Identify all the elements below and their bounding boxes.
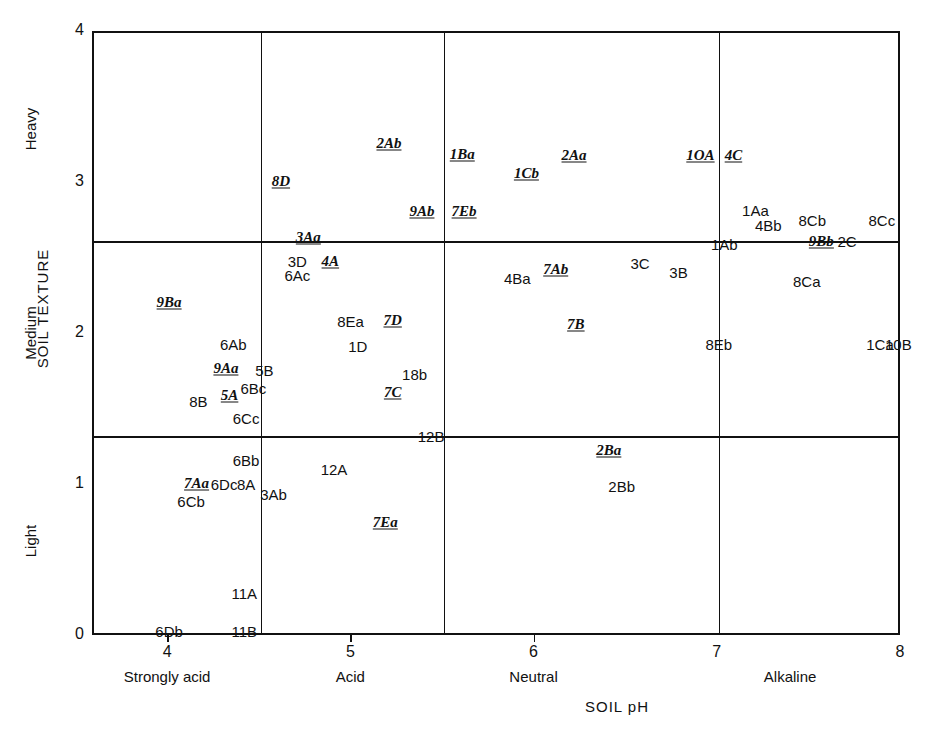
data-point-label: 3C (630, 255, 649, 270)
data-point-label: 9Aa (213, 361, 238, 376)
y-category-label: Medium (22, 298, 39, 368)
data-point-label: 7Eb (452, 204, 477, 219)
data-point-label: 12A (321, 462, 348, 477)
data-point-label: 6Ac (284, 267, 310, 282)
data-point-label: 6Bb (233, 453, 260, 468)
data-point-label: 10B (885, 337, 912, 352)
data-point-label: 9Ba (157, 294, 182, 309)
data-point-label: 8A (237, 477, 255, 492)
x-category-label: Alkaline (705, 668, 875, 685)
data-point-label: 7Ea (373, 515, 398, 530)
data-point-label: 8Cb (798, 213, 826, 228)
x-category-label: Neutral (449, 668, 619, 685)
data-point-label: 2C (837, 234, 856, 249)
data-point-label: 4C (725, 148, 743, 163)
data-point-label: 3Aa (296, 229, 321, 244)
vertical-divider-2 (719, 33, 721, 633)
x-category-label: Strongly acid (82, 668, 252, 685)
x-axis-tick-label: 4 (147, 643, 187, 661)
data-point-label: 2Ab (376, 136, 401, 151)
data-point-label: 7Ab (543, 261, 568, 276)
data-point-label: 8Eb (705, 337, 732, 352)
data-point-label: 1Aa (742, 202, 769, 217)
data-point-label: 6Bc (240, 380, 266, 395)
data-point-label: 7C (384, 385, 402, 400)
data-point-label: 1Cb (514, 166, 539, 181)
data-point-label: 4Bb (755, 217, 782, 232)
data-point-label: 3B (669, 264, 687, 279)
data-point-label: 8Ca (793, 273, 821, 288)
y-axis-tick-label: 1 (62, 474, 84, 492)
data-point-label: 1Ab (711, 237, 738, 252)
data-point-label: 6Cb (177, 494, 205, 509)
x-axis-tick-5 (350, 635, 352, 642)
data-point-label: 4Ba (504, 270, 531, 285)
data-point-label: 5A (221, 388, 239, 403)
x-axis-tick-6 (534, 635, 536, 642)
plot-area: 8D2Ab1Ba1Cb2Aa1OA4C9Ab7Eb1Aa4Bb8Cb8Cc3Aa… (92, 31, 900, 635)
data-point-label: 8Ea (337, 314, 364, 329)
data-point-label: 2Bb (608, 479, 635, 494)
x-category-label: Acid (265, 668, 435, 685)
data-point-label: 5B (255, 362, 273, 377)
data-point-label: 18b (402, 367, 427, 382)
data-point-label: 11B (231, 623, 257, 638)
horizontal-divider-0 (94, 436, 898, 438)
data-point-label: 2Aa (562, 148, 587, 163)
y-axis-tick-label: 0 (62, 625, 84, 643)
data-point-label: 7B (567, 317, 585, 332)
data-point-label: 8B (189, 394, 207, 409)
soil-ph-texture-scatter-figure: SOIL TEXTURE SOIL pH 01234 LightMediumHe… (0, 0, 929, 732)
data-point-label: 9Bb (809, 234, 834, 249)
data-point-label: 11A (231, 586, 257, 601)
data-point-label: 1D (348, 338, 367, 353)
data-point-label: 1Ba (450, 146, 475, 161)
data-point-label: 8D (272, 173, 290, 188)
vertical-divider-1 (444, 33, 446, 633)
x-axis-tick-label: 8 (880, 643, 920, 661)
vertical-divider-0 (261, 33, 263, 633)
data-point-label: 6Db (155, 623, 183, 638)
data-point-label: 7D (383, 312, 401, 327)
data-point-label: 4A (322, 254, 340, 269)
x-axis-tick-label: 6 (514, 643, 554, 661)
y-axis-tick-label: 4 (62, 21, 84, 39)
x-axis-title: SOIL pH (585, 698, 649, 715)
data-point-label: 9Ab (409, 204, 434, 219)
data-point-label: 6Dc (211, 477, 238, 492)
data-point-label: 7Aa (184, 475, 209, 490)
data-point-label: 1OA (686, 148, 714, 163)
y-category-label: Light (22, 506, 39, 576)
x-axis-tick-label: 7 (697, 643, 737, 661)
data-point-label: 2Ba (596, 442, 621, 457)
x-axis-tick-label: 5 (330, 643, 370, 661)
y-axis-tick-label: 2 (62, 323, 84, 341)
horizontal-divider-1 (94, 241, 898, 243)
data-point-label: 8Cc (869, 213, 896, 228)
y-axis-tick-label: 3 (62, 172, 84, 190)
data-point-label: 6Cc (233, 411, 260, 426)
data-point-label: 6Ab (220, 337, 247, 352)
y-category-label: Heavy (22, 94, 39, 164)
data-point-label: 3Ab (260, 486, 287, 501)
data-point-label: 12B (418, 429, 445, 444)
